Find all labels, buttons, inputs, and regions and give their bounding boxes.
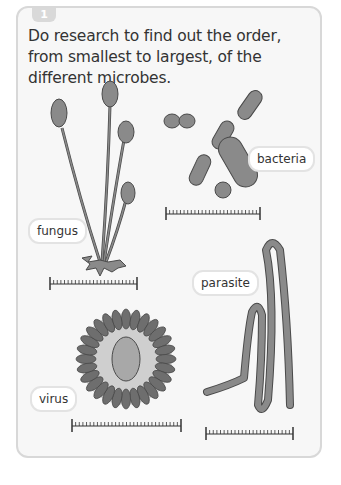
parasite-scale-bar — [206, 427, 293, 440]
parasite-label: parasite — [192, 270, 259, 296]
virus-spike — [122, 389, 131, 409]
virus-spike — [156, 355, 176, 364]
virus-illustration — [76, 309, 176, 409]
fungus-label: fungus — [28, 218, 87, 244]
virus-label: virus — [30, 386, 77, 412]
fungus-scale-bar — [50, 277, 137, 290]
bacteria-label: bacteria — [248, 146, 315, 172]
bacteria-scale-bar — [166, 207, 260, 220]
parasite-illustration — [207, 243, 290, 409]
virus-spike — [76, 355, 96, 364]
bacteria-illustration — [164, 88, 265, 198]
fungus-illustration — [51, 81, 135, 276]
virus-spike — [122, 309, 131, 329]
virus-scale-bar — [72, 419, 181, 432]
